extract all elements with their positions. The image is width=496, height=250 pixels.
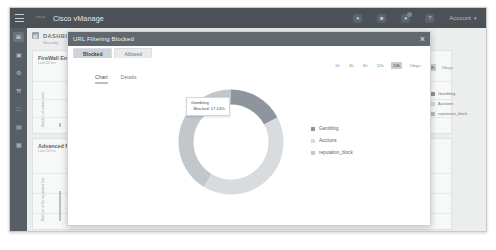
time-range-1h[interactable]: 1h: [333, 62, 342, 69]
modal-title: URL Filtering Blocked: [73, 36, 134, 42]
legend-swatch-icon: [431, 112, 435, 116]
legend-swatch-icon: [311, 151, 315, 155]
app-window: cisco Cisco vManage ● ■ ● ? Account ▾ ⊞ …: [9, 7, 487, 232]
modal-tab-bar: Blocked Allowed: [68, 46, 430, 58]
sidebar-item-workflows[interactable]: ▦: [13, 140, 24, 150]
close-icon[interactable]: ×: [420, 35, 425, 44]
legend-label: Auctions: [438, 101, 453, 106]
modal-subtab-bar: Chart Details: [68, 74, 430, 84]
help-icon[interactable]: ?: [425, 14, 434, 23]
cloud-icon[interactable]: ●: [353, 14, 362, 23]
sidebar-item-dashboard[interactable]: ⊞: [13, 32, 24, 42]
brand: cisco Cisco vManage: [32, 14, 104, 23]
maintenance-icon: □: [17, 106, 21, 112]
legend-swatch-icon: [431, 92, 435, 96]
list-item: Gambling: [431, 91, 467, 96]
legend-label: reputation_block: [438, 111, 467, 116]
dashboard-icon: ⊞: [16, 34, 21, 40]
modal-header: URL Filtering Blocked ×: [68, 32, 430, 46]
tab-blocked[interactable]: Blocked: [73, 48, 112, 58]
dashboard-icon: ▦: [32, 32, 39, 39]
chevron-down-icon: ▾: [474, 15, 477, 21]
url-filtering-modal: URL Filtering Blocked × Blocked Allowed …: [67, 31, 431, 226]
tab-allowed[interactable]: Allowed: [114, 48, 152, 58]
tools-icon: ⚒: [16, 88, 21, 94]
legend-label: Auctions: [319, 138, 337, 143]
monitor-icon: ▣: [16, 52, 22, 58]
chart-tooltip: Gambling - Blocked: 17.24%: [186, 97, 230, 116]
time-range-6h[interactable]: 6h: [361, 62, 370, 69]
sidebar-item-administration[interactable]: ▤: [13, 122, 24, 132]
legend-label: Gambling: [319, 126, 339, 131]
time-range-12h[interactable]: 12h: [375, 62, 386, 69]
tab-details[interactable]: Details: [121, 74, 137, 84]
modal-time-range-group: 1h 3h 6h 12h 24h 7days: [68, 58, 430, 72]
workflows-icon: ▦: [16, 142, 22, 148]
time-range-24h[interactable]: 24h: [391, 62, 402, 69]
left-sidebar: ⊞ ▣ ⚙ ⚒ □ ▤ ▦: [10, 28, 27, 231]
top-navigation-bar: cisco Cisco vManage ● ■ ● ? Account ▾: [10, 8, 486, 28]
chart-legend: Gambling Auctions reputation_block: [311, 126, 353, 155]
legend-swatch-icon: [311, 139, 315, 143]
legend-swatch-icon: [311, 127, 315, 131]
chart-area: Gambling - Blocked: 17.24% Gambling Auct…: [68, 84, 430, 199]
administration-icon: ▤: [16, 124, 22, 130]
list-item: reputation_block: [431, 111, 467, 116]
panel-amp-y-axis-label: Number of file reputation hits: [41, 178, 45, 221]
grid-icon[interactable]: ■: [377, 14, 386, 23]
time-range-3h[interactable]: 3h: [347, 62, 356, 69]
sidebar-item-tools[interactable]: ⚒: [13, 86, 24, 96]
time-range-7days[interactable]: 7days: [407, 62, 423, 69]
screenshot-root: cisco Cisco vManage ● ■ ● ? Account ▾ ⊞ …: [0, 0, 496, 250]
user-account-menu[interactable]: Account ▾: [449, 15, 477, 21]
sidebar-item-maintenance[interactable]: □: [13, 104, 24, 114]
legend-label: reputation_block: [319, 150, 353, 155]
list-item: Auctions: [431, 101, 467, 106]
sidebar-item-configuration[interactable]: ⚙: [13, 68, 24, 78]
sidebar-item-monitor[interactable]: ▣: [13, 50, 24, 60]
legend-item-gambling[interactable]: Gambling: [311, 126, 353, 131]
gear-icon: ⚙: [16, 70, 21, 76]
hamburger-icon[interactable]: [15, 14, 24, 22]
legend-item-auctions[interactable]: Auctions: [311, 138, 353, 143]
topbar-icon-group: ● ■ ● ? Account ▾: [353, 14, 481, 23]
user-account-label: Account: [449, 15, 471, 21]
tab-chart[interactable]: Chart: [95, 74, 108, 84]
legend-item-reputation-block[interactable]: reputation_block: [311, 150, 353, 155]
alarm-bell-icon[interactable]: ●: [401, 14, 410, 23]
legend-swatch-icon: [431, 102, 435, 106]
legend-label: Gambling: [438, 91, 455, 96]
cisco-logo-icon: cisco: [32, 16, 49, 20]
panel-firewall-y-axis-label: Number of connections: [41, 92, 45, 127]
time-range-7days[interactable]: 7days: [439, 64, 455, 71]
app-title: Cisco vManage: [53, 14, 104, 23]
background-legend: Gambling Auctions reputation_block: [431, 91, 467, 116]
tooltip-value: - Blocked: 17.24%: [191, 106, 225, 112]
